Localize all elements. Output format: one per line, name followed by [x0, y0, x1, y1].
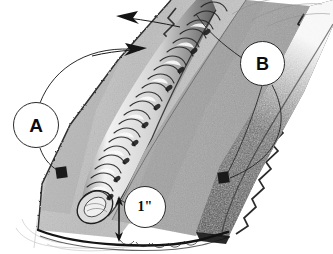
weld-illustration-artboard: A B 1"	[0, 0, 333, 254]
marker-b-square	[217, 171, 229, 183]
illustration-stage: A B 1"	[0, 0, 333, 254]
callout-label-a: A	[29, 115, 43, 134]
callout-bubble-a[interactable]: A	[13, 102, 59, 148]
dimension-label: 1"	[138, 200, 153, 214]
callout-bubble-b[interactable]: B	[240, 41, 285, 86]
callout-label-b: B	[256, 54, 269, 72]
marker-a-square	[55, 166, 67, 178]
callout-bubble-dimension[interactable]: 1"	[124, 186, 166, 228]
